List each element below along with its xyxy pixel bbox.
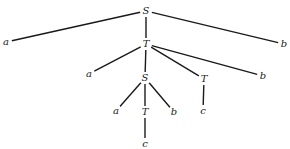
tree-node-b: b bbox=[259, 71, 267, 81]
tree-edge bbox=[12, 12, 140, 40]
tree-node-S: S bbox=[142, 6, 151, 16]
tree-node-S: S bbox=[141, 73, 150, 83]
tree-node-T: T bbox=[142, 39, 151, 49]
tree-node-c: c bbox=[141, 139, 149, 149]
tree-node-a: a bbox=[112, 106, 120, 116]
tree-edge bbox=[94, 47, 140, 71]
tree-edge bbox=[120, 83, 141, 107]
tree-node-T: T bbox=[141, 107, 150, 117]
tree-edge bbox=[152, 46, 257, 75]
tree-node-T: T bbox=[200, 74, 209, 84]
tree-node-a: a bbox=[2, 37, 10, 47]
tree-node-b: b bbox=[170, 107, 178, 117]
tree-edge bbox=[152, 12, 278, 42]
tree-edge bbox=[145, 50, 146, 72]
tree-node-b: b bbox=[280, 39, 288, 49]
tree-edge bbox=[203, 85, 204, 105]
tree-node-a: a bbox=[85, 69, 93, 79]
tree-edge bbox=[149, 83, 170, 108]
tree-node-c: c bbox=[199, 106, 207, 116]
